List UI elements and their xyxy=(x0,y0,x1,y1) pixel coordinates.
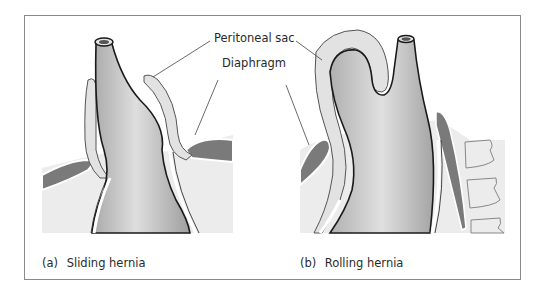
diaphragm-right-a xyxy=(186,139,233,162)
caption-panel-a: (a) Sliding hernia xyxy=(42,256,146,270)
leader-peritoneal-a xyxy=(153,41,210,77)
caption-panel-b: (b) Rolling hernia xyxy=(300,256,403,270)
vertebra-2 xyxy=(467,178,500,208)
panel-a-sliding-hernia xyxy=(42,38,233,233)
vertebra-3 xyxy=(471,218,504,233)
caption-title-a: Sliding hernia xyxy=(67,256,146,270)
label-diaphragm: Diaphragm xyxy=(222,56,286,70)
leader-diaphragm-b xyxy=(286,85,309,145)
caption-tag-a: (a) xyxy=(42,256,63,270)
label-peritoneal-sac: Peritoneal sac xyxy=(214,31,295,45)
panel-b-rolling-hernia xyxy=(300,30,505,233)
caption-title-b: Rolling hernia xyxy=(325,256,404,270)
leader-diaphragm-a xyxy=(195,80,218,135)
caption-tag-b: (b) xyxy=(300,256,321,270)
